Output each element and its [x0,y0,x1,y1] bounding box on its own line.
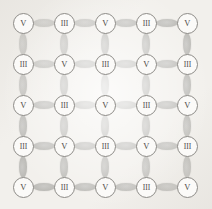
bond-vertical [142,33,150,55]
bond-horizontal [33,101,55,109]
bond-horizontal [33,19,55,27]
site-label: III [184,61,192,69]
lattice-site: V [54,136,75,157]
site-label: III [61,102,69,110]
lattice-site: III [13,54,34,75]
site-label: V [184,183,190,192]
site-label: III [61,20,69,28]
bond-vertical [183,115,191,137]
lattice-site: V [95,95,116,116]
lattice-site: V [177,13,198,34]
bond-vertical [60,33,68,55]
bond-vertical [183,74,191,96]
bond-horizontal [115,183,137,191]
bond-vertical [142,74,150,96]
lattice-site: III [54,177,75,198]
site-label: V [20,19,26,28]
lattice-site: V [95,13,116,34]
site-label: III [102,61,110,69]
site-label: III [61,184,69,192]
bond-horizontal [115,19,137,27]
bond-vertical [101,74,109,96]
lattice-site: III [95,136,116,157]
lattice-site: III [95,54,116,75]
bond-horizontal [33,142,55,150]
bond-vertical [101,33,109,55]
bond-horizontal [33,183,55,191]
lattice-site: III [177,54,198,75]
bond-horizontal [156,101,178,109]
site-label: V [61,142,67,151]
bond-horizontal [156,60,178,68]
site-label: V [20,183,26,192]
bond-horizontal [74,183,96,191]
site-label: III [20,143,28,151]
bond-vertical [60,115,68,137]
lattice-site: V [136,136,157,157]
bond-horizontal [156,142,178,150]
lattice-site: III [54,95,75,116]
lattice-site: V [54,54,75,75]
bond-horizontal [115,60,137,68]
bond-horizontal [33,60,55,68]
site-label: III [102,143,110,151]
bond-vertical [101,156,109,178]
site-label: V [20,101,26,110]
site-label: III [184,143,192,151]
site-label: V [102,19,108,28]
bond-horizontal [156,19,178,27]
bond-vertical [60,156,68,178]
lattice-site: III [13,136,34,157]
lattice-site: III [136,95,157,116]
site-label: III [20,61,28,69]
bond-horizontal [74,101,96,109]
lattice-diagram: VIIIVIIIVIIIVIIIVIIIVIIIVIIIVIIIVIIIVIII… [0,0,212,209]
site-label: V [143,142,149,151]
bond-horizontal [74,19,96,27]
bond-vertical [101,115,109,137]
site-label: V [184,19,190,28]
lattice-site: III [177,136,198,157]
bond-vertical [19,33,27,55]
bond-vertical [183,33,191,55]
lattice-site: III [136,13,157,34]
lattice-site: III [136,177,157,198]
bond-horizontal [74,60,96,68]
lattice-site: V [95,177,116,198]
lattice-site: V [136,54,157,75]
lattice-site: V [177,95,198,116]
site-label: III [143,20,151,28]
lattice-site: V [13,95,34,116]
site-label: V [61,60,67,69]
site-label: III [143,184,151,192]
bond-vertical [19,115,27,137]
site-label: V [184,101,190,110]
bond-vertical [142,115,150,137]
site-label: III [143,102,151,110]
lattice-site: V [177,177,198,198]
site-label: V [102,183,108,192]
bond-vertical [60,74,68,96]
site-label: V [102,101,108,110]
bond-horizontal [115,101,137,109]
bond-horizontal [156,183,178,191]
bond-vertical [19,74,27,96]
bond-vertical [19,156,27,178]
lattice-site: III [54,13,75,34]
lattice-site: V [13,13,34,34]
bond-vertical [142,156,150,178]
bond-vertical [183,156,191,178]
lattice-site: V [13,177,34,198]
site-label: V [143,60,149,69]
bond-horizontal [74,142,96,150]
bond-horizontal [115,142,137,150]
